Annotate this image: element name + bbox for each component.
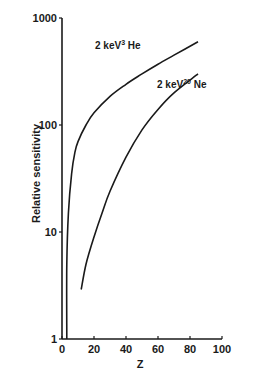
chart: 1101001000020406080100 ZRelative sensiti… bbox=[0, 0, 254, 381]
axes: 1101001000020406080100 bbox=[33, 12, 232, 355]
y-tick-label: 1000 bbox=[33, 12, 57, 24]
x-tick-label: 100 bbox=[213, 343, 231, 355]
x-axis-title: Z bbox=[137, 358, 144, 370]
series-annotation-0: 2 keV3 He bbox=[95, 39, 141, 51]
x-tick-label: 60 bbox=[152, 343, 164, 355]
labels: ZRelative sensitivity2 keV3 He2 keV20 Ne bbox=[30, 39, 207, 370]
x-tick-label: 40 bbox=[120, 343, 132, 355]
series-annotation-1: 2 keV20 Ne bbox=[157, 78, 207, 90]
x-tick-label: 80 bbox=[184, 343, 196, 355]
x-tick-label: 0 bbox=[59, 343, 65, 355]
series-line-1 bbox=[81, 74, 198, 290]
y-tick-label: 10 bbox=[45, 226, 57, 238]
x-tick-label: 20 bbox=[88, 343, 100, 355]
y-tick-label: 1 bbox=[51, 333, 57, 345]
y-axis-title: Relative sensitivity bbox=[30, 123, 42, 223]
